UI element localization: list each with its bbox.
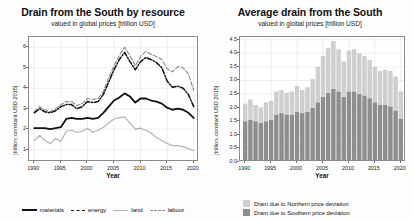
bar-segment-south: [274, 114, 278, 161]
left-x-tickmark: [33, 161, 34, 163]
legend-line-land-icon: [113, 210, 128, 211]
right-x-tickmark: [244, 161, 245, 163]
bar-segment-south: [362, 95, 366, 161]
left-y-tick: 1: [0, 146, 26, 152]
bar-segment-north: [316, 67, 320, 102]
right-x-tick: 1990: [238, 165, 250, 171]
bar-segment-north: [373, 67, 377, 102]
legend-swatch-south-icon: [243, 209, 250, 216]
right-y-tick: 4.0: [207, 49, 237, 55]
bar-segment-north: [388, 71, 392, 106]
bar-segment-south: [347, 91, 351, 161]
bar-segment-north: [248, 100, 252, 120]
right-y-tick: 3.5: [207, 63, 237, 69]
bar-segment-south: [321, 97, 325, 161]
bar-segment-north: [279, 90, 283, 113]
bar-segment-south: [248, 120, 252, 161]
right-x-tickmark: [296, 161, 297, 163]
left-y-tick: 3: [0, 105, 26, 111]
bar-segment-south: [284, 114, 288, 161]
bar-segment-south: [300, 113, 304, 161]
bar-segment-north: [284, 93, 288, 115]
left-plot-area: [28, 36, 198, 161]
left-chart-subtitle: valued in global prices [trillion USD]: [0, 19, 206, 28]
left-legend: materials energy land labour: [0, 207, 206, 213]
right-plot-svg: [240, 37, 405, 161]
right-legend: Drain due to Northern price deviation Dr…: [243, 200, 350, 216]
panel-average-drain: Average drain from the South valued in g…: [207, 0, 413, 221]
legend-line-labour-icon: [150, 210, 165, 211]
bar-segment-north: [269, 101, 273, 120]
right-x-tickmark: [348, 161, 349, 163]
bar-segment-south: [342, 97, 346, 161]
left-x-tickmark: [86, 161, 87, 163]
bar-segment-south: [243, 121, 247, 161]
right-chart-subtitle: valued in global prices [trillion USD]: [207, 19, 413, 28]
right-y-tick: 1.5: [207, 117, 237, 123]
bar-segment-south: [264, 121, 268, 161]
bar-segment-north: [310, 79, 314, 108]
legend-item-northern-deviation[interactable]: Drain due to Northern price deviation: [243, 200, 349, 207]
right-y-tick: 3.0: [207, 76, 237, 82]
bar-segment-north: [326, 48, 330, 93]
bar-segment-south: [331, 89, 335, 161]
right-titles: Average drain from the South valued in g…: [207, 6, 413, 28]
right-plot-area: [239, 36, 405, 161]
legend-item-labour[interactable]: labour: [150, 207, 185, 213]
right-y-tick: 1.0: [207, 131, 237, 137]
right-y-tick: 2.0: [207, 104, 237, 110]
left-x-tick: 2005: [107, 165, 119, 171]
left-plot-svg: [29, 37, 198, 161]
right-x-tickmark: [270, 161, 271, 163]
right-y-tick: 4.5: [207, 36, 237, 42]
left-x-tick: 1995: [54, 165, 66, 171]
right-y-tick: 0.0: [207, 158, 237, 164]
right-x-tick: 2010: [342, 165, 354, 171]
bar-segment-south: [295, 112, 299, 161]
legend-item-southern-deviation[interactable]: Drain due to Southern price deviation: [243, 209, 350, 216]
right-chart-title: Average drain from the South: [207, 6, 413, 18]
bar-segment-south: [393, 110, 397, 161]
bar-segment-north: [399, 91, 403, 118]
legend-item-land[interactable]: land: [113, 207, 142, 213]
left-y-tick: 6: [0, 43, 26, 49]
left-y-tick: 2: [0, 125, 26, 131]
right-x-tick: 2020: [394, 165, 406, 171]
bar-segment-north: [357, 53, 361, 94]
legend-item-materials[interactable]: materials: [22, 207, 64, 213]
right-x-tick: 2005: [316, 165, 328, 171]
bar-segment-north: [378, 71, 382, 105]
legend-item-energy[interactable]: energy: [71, 207, 106, 213]
bar-segment-north: [347, 51, 351, 92]
bar-segment-south: [357, 94, 361, 161]
bar-segment-north: [305, 87, 309, 111]
bar-segment-south: [388, 106, 392, 161]
legend-label-labour: labour: [168, 207, 185, 213]
bar-segment-south: [367, 98, 371, 161]
right-x-tick: 2015: [368, 165, 380, 171]
bar-segment-north: [367, 60, 371, 98]
right-x-tickmark: [374, 161, 375, 163]
bar-segment-south: [326, 93, 330, 161]
left-x-tickmark: [113, 161, 114, 163]
bar-segment-north: [383, 70, 387, 105]
legend-line-materials-icon: [22, 209, 37, 211]
left-chart-title: Drain from the South by resource: [0, 6, 206, 18]
bar-segment-south: [269, 120, 273, 161]
bar-segment-south: [310, 108, 314, 161]
bar-segment-north: [336, 49, 340, 91]
bar-segment-south: [373, 102, 377, 161]
left-x-tickmark: [140, 161, 141, 163]
bar-segment-north: [243, 104, 247, 122]
left-y-axis-label: [trillion, constant USD 2015]: [12, 86, 18, 155]
legend-swatch-north-icon: [243, 200, 250, 207]
left-x-axis-label: Year: [28, 172, 198, 179]
left-x-tick: 2010: [134, 165, 146, 171]
bar-segment-north: [274, 91, 278, 114]
bar-segment-south: [316, 102, 320, 161]
bar-segment-north: [342, 61, 346, 96]
bar-segment-south: [352, 91, 356, 161]
left-y-tick: 5: [0, 64, 26, 70]
panel-drain-by-resource: Drain from the South by resource valued …: [0, 0, 206, 221]
bar-segment-south: [259, 123, 263, 161]
